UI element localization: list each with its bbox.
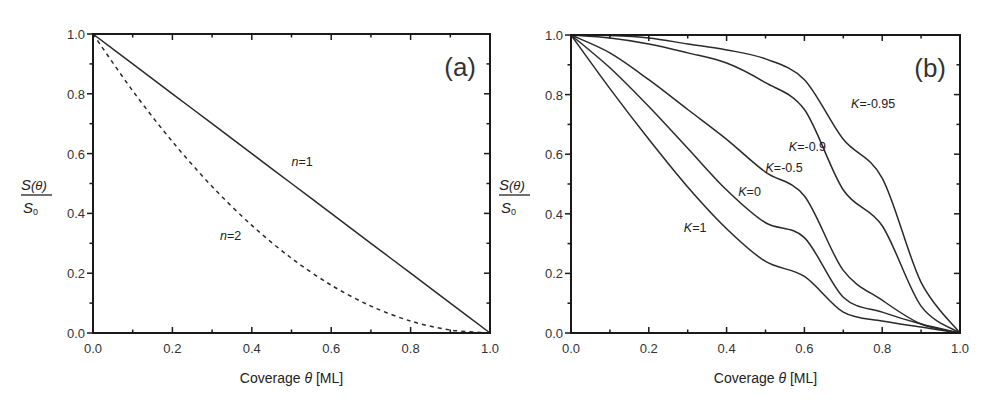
y-tick-label: 0.4 [545,207,563,222]
y-tick-label: 1.0 [545,28,563,43]
panel-b-plot: K=1K=0K=-0.5K=-0.9K=-0.950.00.20.40.60.8… [499,28,969,386]
curve-label: K=-0.5 [766,161,803,175]
curve-label: K=-0.9 [789,140,826,154]
x-tick-label: 0.4 [718,341,736,356]
plot-frame [571,35,960,333]
panel-label: (a) [444,52,476,82]
y-axis-title-denominator: S0 [23,199,38,217]
y-tick-label: 0.0 [67,326,85,341]
y-tick-label: 0.8 [545,88,563,103]
curve-label: K=-0.95 [851,97,895,111]
x-tick-label: 1.0 [481,341,499,356]
y-axis-title-denominator: S0 [501,199,516,217]
x-axis-title: Coverage θ [ML] [714,370,817,386]
x-axis-title: Coverage θ [ML] [240,370,343,386]
figure: n=1n=20.00.20.40.60.81.00.00.20.40.60.81… [0,0,989,412]
x-tick-label: 1.0 [951,341,969,356]
x-tick-label: 0.0 [562,341,580,356]
x-tick-label: 0.6 [322,341,340,356]
curve-k-0 [571,35,960,333]
y-tick-label: 0.4 [67,206,85,221]
curve-label: n=1 [292,155,313,169]
y-tick-label: 0.6 [545,147,563,162]
curve-label: n=2 [220,229,241,243]
curve-k-0-95 [571,35,960,333]
x-tick-label: 0.2 [163,341,181,356]
x-tick-label: 0.8 [402,341,420,356]
x-tick-label: 0.8 [873,341,891,356]
x-tick-label: 0.2 [640,341,658,356]
curve-label: K=0 [738,185,761,199]
curve-label: K=1 [684,221,707,235]
curve-k-0-5 [571,35,960,333]
y-axis-title-numerator: S(θ) [21,176,47,193]
y-axis-title-numerator: S(θ) [499,176,525,193]
y-tick-label: 1.0 [67,27,85,42]
curve-k-0-9 [571,35,960,333]
y-tick-label: 0.2 [545,266,563,281]
y-tick-label: 0.8 [67,87,85,102]
x-tick-label: 0.0 [84,341,102,356]
y-tick-label: 0.0 [545,326,563,341]
x-tick-label: 0.6 [795,341,813,356]
panel-a-plot: n=1n=20.00.20.40.60.81.00.00.20.40.60.81… [21,27,499,386]
y-tick-label: 0.2 [67,266,85,281]
panel-label: (b) [914,53,946,83]
y-tick-label: 0.6 [67,147,85,162]
curve-n-1 [93,34,490,333]
x-tick-label: 0.4 [243,341,261,356]
curve-k-1 [571,35,960,333]
